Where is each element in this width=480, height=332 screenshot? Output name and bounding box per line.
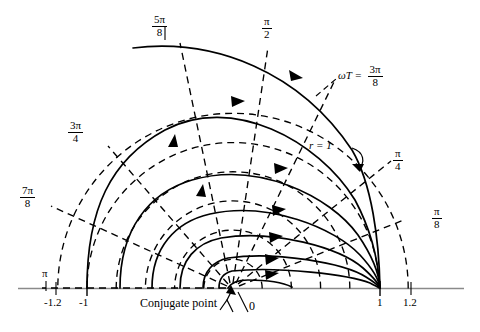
- x-tick-minus-1-2: -1.2: [44, 296, 61, 308]
- locus-branch-3: [120, 175, 380, 288]
- ray-label-pi-2: π 2: [262, 16, 272, 40]
- conjugate-point-label: Conjugate point: [140, 297, 217, 310]
- ray-label-3pi-4: 3π 4: [68, 120, 83, 144]
- omega-label-leader: [316, 79, 336, 96]
- x-tick-zero: 0: [249, 299, 255, 314]
- locus-branch-8: [228, 280, 292, 288]
- omega-t-value-num: 3π: [368, 64, 383, 77]
- x-tick-minus-1: -1: [79, 296, 88, 308]
- ray-label-3pi-4-den: 4: [68, 133, 83, 145]
- ray-label-pi-2-den: 2: [262, 29, 272, 41]
- omega-t-label: ωT = 3π 8: [338, 64, 383, 88]
- ray-label-pi-4-den: 4: [393, 161, 403, 173]
- ray-label-pi-8-num: π: [432, 206, 442, 219]
- ray-label-pi: π: [42, 268, 48, 280]
- x-tick-one-point-two: 1.2: [403, 296, 417, 308]
- ray-label-3pi-4-num: 3π: [68, 120, 83, 133]
- ray-label-ticks: [46, 26, 165, 291]
- ray-label-7pi-8-den: 8: [20, 198, 35, 210]
- ray-label-pi-8-den: 8: [432, 219, 442, 231]
- omega-t-prefix: ωT =: [338, 70, 362, 82]
- ray-label-5pi-8: 5π 8: [152, 14, 167, 38]
- figure-container: 5π 8 π 2 ωT = 3π 8 3π 4 r = 1 π 4: [0, 0, 480, 332]
- ray-label-pi-4: π 4: [393, 148, 403, 172]
- real-axis: [18, 281, 464, 296]
- root-locus-branches: [87, 46, 380, 288]
- locus-branch-5: [180, 236, 380, 288]
- x-tick-one: 1: [377, 296, 383, 308]
- ray-label-7pi-8: 7π 8: [20, 185, 35, 209]
- ray-label-5pi-8-num: 5π: [152, 14, 167, 27]
- ray-label-5pi-8-den: 8: [152, 27, 167, 39]
- ray-label-pi-4-num: π: [393, 148, 403, 161]
- ray-label-pi-2-num: π: [262, 16, 272, 29]
- ray-label-7pi-8-num: 7π: [20, 185, 35, 198]
- r-equals-one-label: r = 1: [309, 140, 332, 152]
- ray-label-pi-8: π 8: [432, 206, 442, 230]
- z-plane-grid-plot: [0, 0, 480, 332]
- origin-leader: [238, 292, 248, 312]
- omega-t-value-den: 8: [368, 77, 383, 89]
